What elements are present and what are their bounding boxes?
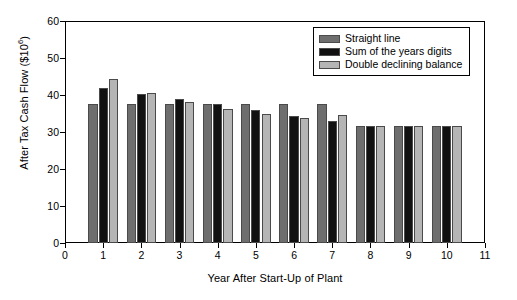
bar bbox=[442, 126, 451, 243]
x-tick-mark bbox=[65, 243, 66, 248]
bar bbox=[99, 88, 108, 243]
x-tick-label: 0 bbox=[62, 250, 68, 261]
bar bbox=[241, 104, 250, 243]
bar bbox=[203, 104, 212, 243]
x-tick-mark bbox=[409, 243, 410, 248]
x-tick-mark bbox=[485, 243, 486, 248]
x-tick-label: 6 bbox=[291, 250, 297, 261]
y-tick-label: 0 bbox=[23, 238, 59, 249]
y-axis-title-tail: ) bbox=[18, 36, 30, 40]
bar bbox=[279, 104, 288, 243]
legend-swatch-straight-line bbox=[319, 35, 340, 43]
x-tick-label: 8 bbox=[368, 250, 374, 261]
y-tick-label: 10 bbox=[23, 201, 59, 212]
bar bbox=[394, 126, 403, 243]
x-tick-label: 5 bbox=[253, 250, 259, 261]
bar bbox=[300, 118, 309, 243]
bar bbox=[356, 126, 365, 243]
bar bbox=[414, 126, 423, 243]
x-tick-mark bbox=[332, 243, 333, 248]
bar bbox=[251, 110, 260, 243]
y-tick-label: 20 bbox=[23, 164, 59, 175]
x-tick-mark bbox=[141, 243, 142, 248]
bar bbox=[127, 104, 136, 243]
y-tick-label: 50 bbox=[23, 53, 59, 64]
x-tick-label: 1 bbox=[100, 250, 106, 261]
bar bbox=[262, 114, 271, 243]
x-tick-label: 2 bbox=[138, 250, 144, 261]
x-tick-label: 3 bbox=[177, 250, 183, 261]
bar bbox=[147, 93, 156, 243]
y-tick-label: 60 bbox=[23, 16, 59, 27]
bar bbox=[175, 99, 184, 243]
bar bbox=[338, 115, 347, 243]
x-tick-mark bbox=[180, 243, 181, 248]
x-tick-label: 11 bbox=[480, 250, 491, 261]
x-tick-label: 4 bbox=[215, 250, 221, 261]
bar bbox=[109, 79, 118, 243]
bar bbox=[432, 126, 441, 243]
bar bbox=[376, 126, 385, 243]
x-tick-mark bbox=[447, 243, 448, 248]
bar bbox=[88, 104, 97, 243]
legend-label-double-declining-balance: Double declining balance bbox=[345, 59, 462, 70]
x-axis-title: Year After Start-Up of Plant bbox=[65, 272, 485, 284]
y-tick-label: 40 bbox=[23, 90, 59, 101]
x-tick-mark bbox=[370, 243, 371, 248]
legend-item: Straight line bbox=[319, 32, 462, 45]
bar bbox=[404, 126, 413, 243]
chart-figure: After Tax Cash Flow ($106) 0102030405060… bbox=[0, 0, 517, 300]
bar bbox=[137, 94, 146, 243]
bar bbox=[328, 121, 337, 243]
bar bbox=[452, 126, 461, 243]
bar bbox=[317, 104, 326, 243]
legend-swatch-sum-of-years-digits bbox=[319, 48, 340, 56]
bar bbox=[185, 102, 194, 243]
legend-label-straight-line: Straight line bbox=[345, 33, 400, 44]
x-tick-mark bbox=[218, 243, 219, 248]
legend-label-sum-of-years-digits: Sum of the years digits bbox=[345, 46, 452, 57]
y-axis-title: After Tax Cash Flow ($106) bbox=[16, 0, 30, 218]
x-tick-label: 9 bbox=[406, 250, 412, 261]
x-tick-mark bbox=[103, 243, 104, 248]
x-tick-mark bbox=[256, 243, 257, 248]
x-tick-mark bbox=[294, 243, 295, 248]
bar bbox=[366, 126, 375, 243]
bar bbox=[165, 104, 174, 243]
legend-item: Double declining balance bbox=[319, 58, 462, 71]
legend-item: Sum of the years digits bbox=[319, 45, 462, 58]
y-axis-title-exponent: 6 bbox=[16, 40, 25, 44]
legend: Straight line Sum of the years digits Do… bbox=[313, 27, 470, 76]
bar bbox=[289, 116, 298, 243]
bar bbox=[223, 109, 232, 243]
y-tick-label: 30 bbox=[23, 127, 59, 138]
legend-swatch-double-declining-balance bbox=[319, 61, 340, 69]
bar bbox=[213, 104, 222, 243]
x-tick-label: 7 bbox=[329, 250, 335, 261]
x-tick-label: 10 bbox=[441, 250, 453, 261]
